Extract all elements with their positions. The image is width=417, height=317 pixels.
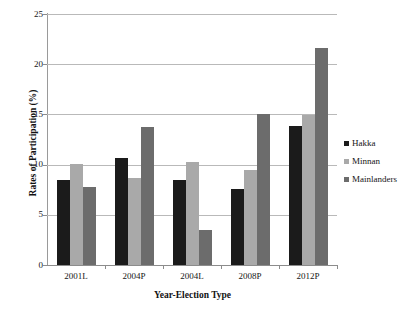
x-tick-label-2001L: 2001L (46, 272, 106, 281)
y-tick-mark (43, 14, 47, 15)
legend-swatch-icon (344, 141, 349, 146)
bar-minnan-2012P (302, 115, 315, 265)
legend-label: Mainlanders (352, 175, 397, 184)
x-tick-label-2008P: 2008P (220, 272, 280, 281)
x-tick-mark (105, 265, 106, 269)
x-axis-title: Year-Election Type (47, 290, 338, 300)
bar-minnan-2004L (186, 162, 199, 265)
x-tick-label-2012P: 2012P (278, 272, 338, 281)
bar-hakka-2008P (231, 189, 244, 265)
bar-chart: Rates of Participation (%) 0510152025 20… (0, 0, 417, 317)
x-tick-mark (163, 265, 164, 269)
bar-minnan-2004P (128, 178, 141, 265)
gridline (47, 114, 337, 115)
y-tick-label: 15 (13, 110, 43, 119)
y-tick-label: 20 (13, 60, 43, 69)
legend-label: Hakka (352, 139, 376, 148)
bar-hakka-2001L (57, 180, 70, 265)
y-tick-label: 0 (13, 261, 43, 270)
plot-area (47, 14, 337, 265)
y-tick-mark (43, 165, 47, 166)
bar-hakka-2004P (115, 158, 128, 265)
chart-legend: HakkaMinnanMainlanders (344, 134, 417, 188)
x-tick-mark (337, 265, 338, 269)
y-tick-mark (43, 64, 47, 65)
bar-minnan-2008P (244, 170, 257, 265)
gridline (47, 14, 337, 15)
bar-mainlanders-2008P (257, 114, 270, 265)
x-tick-mark (279, 265, 280, 269)
legend-item-hakka: Hakka (344, 134, 417, 152)
legend-item-mainlanders: Mainlanders (344, 170, 417, 188)
y-tick-label: 5 (13, 210, 43, 219)
x-tick-label-2004P: 2004P (104, 272, 164, 281)
legend-label: Minnan (352, 157, 380, 166)
x-tick-label-2004L: 2004L (162, 272, 222, 281)
bar-mainlanders-2004L (199, 230, 212, 265)
y-tick-label: 25 (13, 10, 43, 19)
legend-item-minnan: Minnan (344, 152, 417, 170)
y-tick-mark (43, 114, 47, 115)
y-tick-label: 10 (13, 160, 43, 169)
x-axis-line (47, 265, 338, 266)
x-tick-mark (221, 265, 222, 269)
bar-hakka-2012P (289, 126, 302, 265)
bar-mainlanders-2012P (315, 48, 328, 265)
bar-mainlanders-2001L (83, 187, 96, 265)
bar-mainlanders-2004P (141, 127, 154, 265)
bar-hakka-2004L (173, 180, 186, 265)
legend-swatch-icon (344, 177, 349, 182)
gridline (47, 64, 337, 65)
legend-swatch-icon (344, 159, 349, 164)
y-tick-mark (43, 215, 47, 216)
bar-minnan-2001L (70, 164, 83, 265)
y-tick-mark (43, 265, 47, 266)
